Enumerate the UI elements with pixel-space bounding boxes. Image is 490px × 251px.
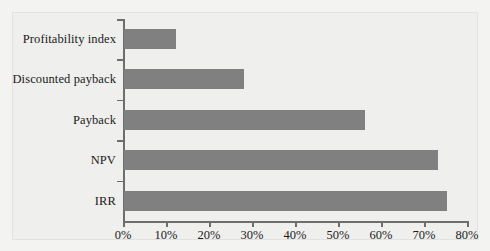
value-tick xyxy=(209,221,211,227)
bar-payback[interactable] xyxy=(124,110,365,130)
value-tick-label: 40% xyxy=(284,228,307,243)
bar-irr[interactable] xyxy=(124,191,447,211)
bar-row: Profitability index xyxy=(123,19,467,59)
category-label: Discounted payback xyxy=(12,69,116,89)
bar-profitability-index[interactable] xyxy=(124,29,176,49)
bar-npv[interactable] xyxy=(124,150,438,170)
value-tick-label: 0% xyxy=(115,228,132,243)
value-tick xyxy=(424,221,426,227)
category-tick xyxy=(117,59,124,61)
value-tick-label: 60% xyxy=(370,228,393,243)
category-label: IRR xyxy=(95,191,116,211)
value-tick xyxy=(467,221,469,227)
value-tick xyxy=(166,221,168,227)
value-tick-label: 70% xyxy=(413,228,436,243)
value-tick-label: 50% xyxy=(327,228,350,243)
category-label: Payback xyxy=(73,110,116,130)
value-tick xyxy=(381,221,383,227)
category-label: Profitability index xyxy=(23,29,116,49)
bar-row: Discounted payback xyxy=(123,59,467,99)
category-label: NPV xyxy=(91,150,116,170)
bar-row: NPV xyxy=(123,140,467,180)
value-tick-label: 20% xyxy=(198,228,221,243)
chart-plot-area: Profitability index Discounted payback P… xyxy=(123,19,467,221)
value-tick xyxy=(295,221,297,227)
category-tick xyxy=(117,181,124,183)
value-tick xyxy=(252,221,254,227)
category-tick xyxy=(117,19,124,21)
chart-figure: Profitability index Discounted payback P… xyxy=(0,0,490,251)
value-tick xyxy=(338,221,340,227)
bar-row: Payback xyxy=(123,100,467,140)
chart-plot-panel: Profitability index Discounted payback P… xyxy=(12,12,478,240)
value-tick xyxy=(123,221,125,227)
value-tick-label: 80% xyxy=(456,228,479,243)
value-tick-label: 30% xyxy=(241,228,264,243)
category-tick xyxy=(117,100,124,102)
bar-discounted-payback[interactable] xyxy=(124,69,244,89)
value-tick-label: 10% xyxy=(155,228,178,243)
category-tick xyxy=(117,140,124,142)
bar-row: IRR xyxy=(123,181,467,221)
